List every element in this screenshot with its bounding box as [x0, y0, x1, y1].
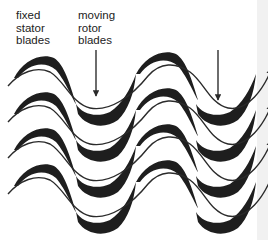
rotor-column-1 [76, 74, 136, 234]
stator-blade [14, 164, 76, 212]
rotor-column-2 [196, 74, 256, 234]
turbine-blade-diagram [0, 0, 268, 240]
stator-blade [136, 160, 198, 208]
stator-column-2 [136, 52, 198, 208]
rotor-blade [76, 74, 136, 126]
stator-column-1 [14, 56, 76, 212]
rotor-blade [196, 74, 256, 126]
